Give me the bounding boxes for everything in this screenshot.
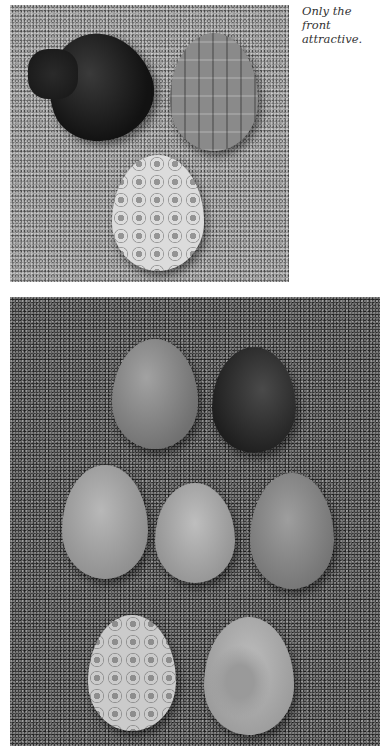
floral-pattern-egg [204,617,294,735]
plain-egg-right [250,473,334,589]
caption-text: Only the front attractive. [302,4,380,46]
tile-pattern-egg [170,33,258,151]
lace-pattern-egg [112,155,204,271]
plain-egg-left [62,465,148,579]
stitched-tassel [28,49,78,99]
top-egg-photo [10,5,289,282]
circle-pattern-egg [88,615,176,731]
bottom-egg-photo [10,297,380,746]
plain-egg-middle [155,483,235,583]
dark-egg [212,347,296,453]
speckled-egg [112,339,198,449]
